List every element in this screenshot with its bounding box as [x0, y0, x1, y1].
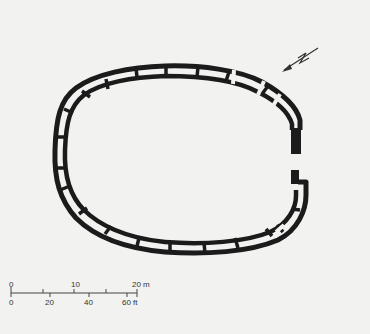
enclosure-wall [55, 66, 306, 253]
scale-metric-0: 0 [9, 280, 14, 289]
scale-metric-20m: 20 m [132, 280, 150, 289]
scale-imperial-60ft: 60 ft [122, 298, 138, 307]
scale-imperial-20: 20 [45, 298, 54, 307]
site-plan: 0 10 20 m 0 20 40 60 ft [0, 0, 370, 334]
scale-imperial-0: 0 [9, 298, 14, 307]
scale-imperial-40: 40 [84, 298, 93, 307]
scale-metric-10: 10 [71, 280, 80, 289]
north-arrow-icon [282, 48, 318, 72]
scale-bar: 0 10 20 m 0 20 40 60 ft [9, 280, 150, 307]
